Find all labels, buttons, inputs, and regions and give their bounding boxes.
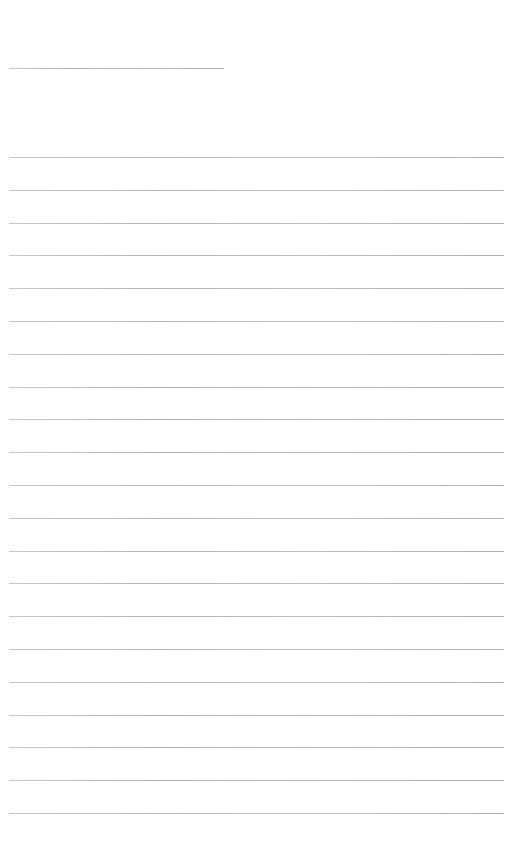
ruled-line (9, 157, 504, 158)
ruled-line (9, 747, 504, 748)
ruled-line (9, 255, 504, 256)
ruled-line (9, 682, 504, 683)
ruled-line (9, 419, 504, 420)
ruled-line (9, 485, 504, 486)
title-line (9, 68, 224, 69)
ruled-line (9, 715, 504, 716)
ruled-line (9, 354, 504, 355)
ruled-line (9, 583, 504, 584)
ruled-line (9, 518, 504, 519)
ruled-line (9, 780, 504, 781)
ruled-line (9, 223, 504, 224)
ruled-line (9, 813, 504, 814)
ruled-line (9, 288, 504, 289)
ruled-line (9, 387, 504, 388)
lined-paper-page (0, 0, 528, 862)
ruled-line (9, 452, 504, 453)
ruled-line (9, 551, 504, 552)
ruled-line (9, 321, 504, 322)
ruled-line (9, 190, 504, 191)
ruled-line (9, 649, 504, 650)
ruled-line (9, 616, 504, 617)
